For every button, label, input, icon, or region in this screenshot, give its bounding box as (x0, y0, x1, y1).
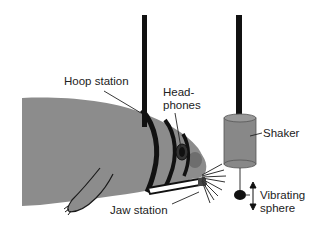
label-headphones-1: Head- (163, 86, 194, 99)
label-hoop-station: Hoop station (64, 75, 129, 88)
seal-experiment-diagram: Hoop station Head- phones Shaker Jaw sta… (0, 0, 318, 230)
vibrating-sphere (234, 190, 246, 200)
jaw-leader (172, 192, 199, 204)
label-vibrating-1: Vibrating (260, 189, 305, 202)
label-headphones-2: phones (163, 99, 201, 112)
shaker-body (224, 114, 256, 168)
label-vibrating-2: sphere (260, 202, 295, 215)
vibration-arrow-icon (250, 182, 256, 210)
hoop-pole (142, 15, 147, 127)
label-jaw-station: Jaw station (110, 204, 168, 217)
label-shaker: Shaker (263, 127, 299, 140)
shaker-pole (236, 15, 242, 115)
